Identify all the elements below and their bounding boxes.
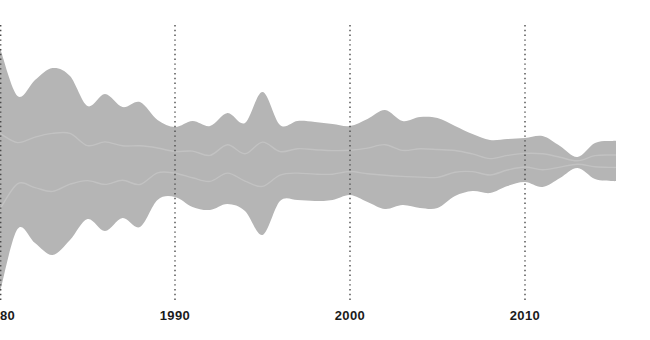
x-tick-label-1990: 1990 [143, 308, 207, 323]
stream-layer [0, 48, 616, 292]
x-tick-label-1980: 1980 [0, 308, 32, 323]
streamgraph [0, 0, 650, 340]
stream-area [0, 48, 616, 292]
x-tick-label-2000: 2000 [318, 308, 382, 323]
x-tick-label-2010: 2010 [493, 308, 557, 323]
